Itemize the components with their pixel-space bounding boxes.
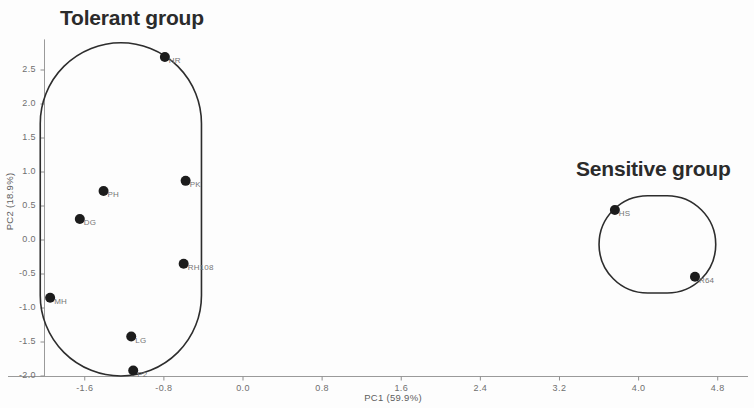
x-tick-label: 0.0 [223,383,263,393]
data-point-label: R64 [699,276,714,285]
x-tick-label: 4.8 [698,383,738,393]
y-tick-label: -1.5 [2,336,36,346]
data-point-label: PK [190,180,201,189]
x-tick-label: 4.0 [619,383,659,393]
data-points-layer [45,52,700,375]
data-point-label: HS [619,209,631,218]
axes-layer [8,39,748,380]
y-tick-label: 2.5 [2,64,36,74]
plot-canvas [0,0,754,408]
x-axis-title: PC1 (59.9%) [333,392,453,403]
data-point-label: DG [84,218,96,227]
x-tick-label: 0.8 [302,383,342,393]
x-tick-label: 1.6 [381,383,421,393]
data-point-label: MH [54,297,67,306]
y-tick-label: -0.5 [2,268,36,278]
x-tick-label: 2.4 [460,383,500,393]
pca-scatter-plot: Tolerant group Sensitive group 2.52.01.5… [0,0,754,408]
y-tick-label: 1.5 [2,132,36,142]
x-tick-label: -1.6 [65,383,105,393]
y-axis-title: PC2 (18.9%) [4,162,15,242]
data-point-label: RH108 [188,263,214,272]
y-tick-label: -1.0 [2,302,36,312]
group-hull-tolerant [40,43,201,376]
x-tick-label: -0.8 [144,383,184,393]
x-tick-label: 3.2 [539,383,579,393]
data-point-label: P2 [137,370,147,379]
y-tick-label: 2.0 [2,98,36,108]
data-point-label: HR [169,56,181,65]
data-point-label: LG [135,336,146,345]
data-point-label: PH [108,190,120,199]
y-tick-label: -2.0 [2,370,36,380]
